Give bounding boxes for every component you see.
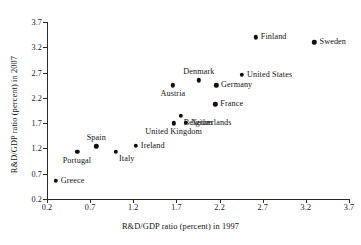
data-point — [254, 35, 258, 39]
x-tick-label: 0.2 — [42, 203, 53, 212]
data-point — [53, 179, 57, 183]
data-point-label: Austria — [160, 89, 185, 98]
x-tick-label: 1.2 — [128, 203, 139, 212]
y-tick-label: 3.2 — [31, 43, 42, 52]
data-point — [214, 83, 218, 87]
data-point-label: Spain — [87, 133, 106, 142]
y-tick-label: 0.7 — [31, 169, 42, 178]
x-tick-label: 3.7 — [344, 203, 355, 212]
y-tick-label: 3.7 — [31, 18, 42, 27]
y-tick — [43, 199, 47, 200]
data-point-label: Sweden — [319, 37, 346, 46]
data-point-label: Finland — [261, 32, 287, 41]
data-point — [134, 144, 138, 148]
x-tick-label: 3.2 — [301, 203, 312, 212]
x-tick-label: 2.2 — [214, 203, 225, 212]
data-point — [240, 72, 244, 76]
data-point — [172, 121, 176, 125]
plot-area: GreecePortugalSpainItalyIrelandUnited Ki… — [47, 22, 349, 199]
data-point — [197, 78, 201, 82]
x-tick-label: 1.7 — [171, 203, 182, 212]
data-point-label: Portugal — [63, 156, 92, 165]
scatter-chart: 0.20.71.21.72.22.73.23.7 0.20.71.21.72.2… — [0, 0, 361, 245]
x-axis-line — [47, 199, 349, 200]
data-point-label: Germany — [221, 80, 252, 89]
x-tick-label: 2.7 — [257, 203, 268, 212]
data-point — [179, 114, 183, 118]
data-point-label: United States — [247, 70, 292, 79]
data-point — [114, 150, 118, 154]
data-point-label: Greece — [61, 176, 85, 185]
x-tick-label: 0.7 — [85, 203, 96, 212]
data-point — [171, 83, 175, 87]
data-point-label: Ireland — [141, 141, 165, 150]
data-point-label: United Kingdom — [145, 127, 202, 136]
data-point-label: Italy — [119, 154, 135, 163]
data-point — [75, 150, 79, 154]
y-tick-label: 2.2 — [31, 93, 42, 102]
data-point — [312, 40, 316, 44]
y-tick-label: 1.7 — [31, 119, 42, 128]
data-point-label: Denmark — [183, 67, 214, 76]
data-point-label: France — [220, 99, 243, 108]
y-axis-title: R&D/GDP ratio (percent) in 2007 — [10, 35, 19, 195]
y-tick-label: 0.2 — [31, 195, 42, 204]
data-point — [94, 144, 98, 148]
x-axis-title: R&D/GDP ratio (percent) in 1997 — [0, 222, 361, 231]
y-tick-label: 1.2 — [31, 144, 42, 153]
data-point — [213, 102, 217, 106]
data-point-label: Belgium — [184, 118, 213, 127]
y-tick-label: 2.7 — [31, 68, 42, 77]
